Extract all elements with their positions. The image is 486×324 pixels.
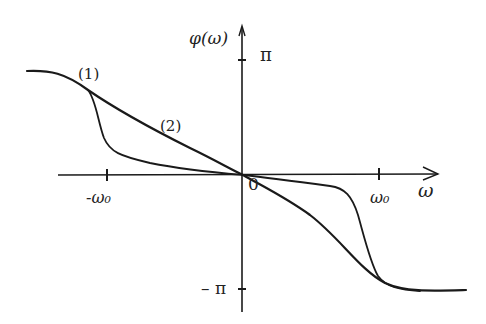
x-axis-label: ω	[418, 179, 434, 201]
tick-label-pi: π	[260, 44, 272, 65]
tick-label-minus-pi: – π	[201, 278, 226, 298]
curve-2	[27, 71, 466, 291]
y-axis-label: φ(ω)	[189, 28, 228, 48]
tick-label-minus-omega0: -ω₀	[86, 188, 111, 207]
tick-label-omega0: ω₀	[370, 188, 389, 207]
origin-label: 0	[248, 174, 259, 194]
phase-diagram	[0, 0, 486, 324]
curve-2-label: (2)	[160, 117, 181, 135]
curve-1-label: (1)	[78, 65, 99, 83]
